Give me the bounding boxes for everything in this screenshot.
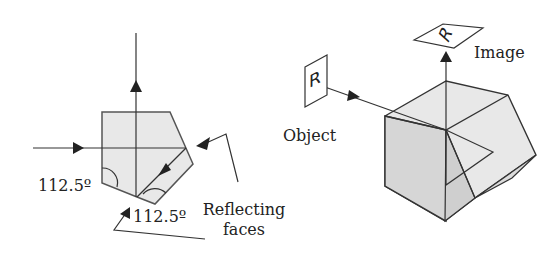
angle-label-left: 112.5º — [38, 178, 91, 194]
image-label: Image — [474, 45, 525, 61]
angle-label-bottom: 112.5º — [133, 209, 186, 225]
reflecting-faces-line2: faces — [198, 220, 290, 240]
ray-arrow-icon — [130, 80, 142, 92]
pentaprism-figure: 112.5º 112.5º Reflecting faces Object Im… — [0, 0, 559, 254]
pointer-arrow-icon — [120, 207, 130, 219]
pointer-arrow-icon — [196, 137, 210, 150]
ray-arrow-icon — [440, 51, 452, 62]
reflecting-faces-line1: Reflecting — [198, 200, 290, 220]
reflecting-faces-label: Reflecting faces — [198, 200, 290, 240]
object-label: Object — [283, 128, 336, 144]
ray-arrow-icon — [73, 142, 84, 154]
